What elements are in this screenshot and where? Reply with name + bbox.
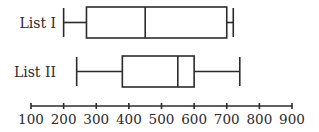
iqr-box [122, 56, 194, 87]
box-row-1: List I [19, 7, 233, 38]
tick-label: 500 [149, 111, 175, 127]
box-plot-chart: List IList II 10020030040050060070080090… [0, 0, 319, 132]
iqr-box [86, 7, 226, 38]
tick-label: 300 [83, 111, 109, 127]
series-label: List II [14, 64, 56, 80]
series-label: List I [19, 15, 56, 31]
tick-label: 400 [116, 111, 142, 127]
tick-label: 900 [279, 111, 305, 127]
tick-label: 200 [51, 111, 77, 127]
box-row-2: List II [14, 56, 240, 87]
tick-label: 700 [214, 111, 240, 127]
x-axis: 100200300400500600700800900 [18, 103, 305, 127]
tick-label: 600 [181, 111, 207, 127]
tick-label: 100 [18, 111, 44, 127]
tick-label: 800 [246, 111, 272, 127]
